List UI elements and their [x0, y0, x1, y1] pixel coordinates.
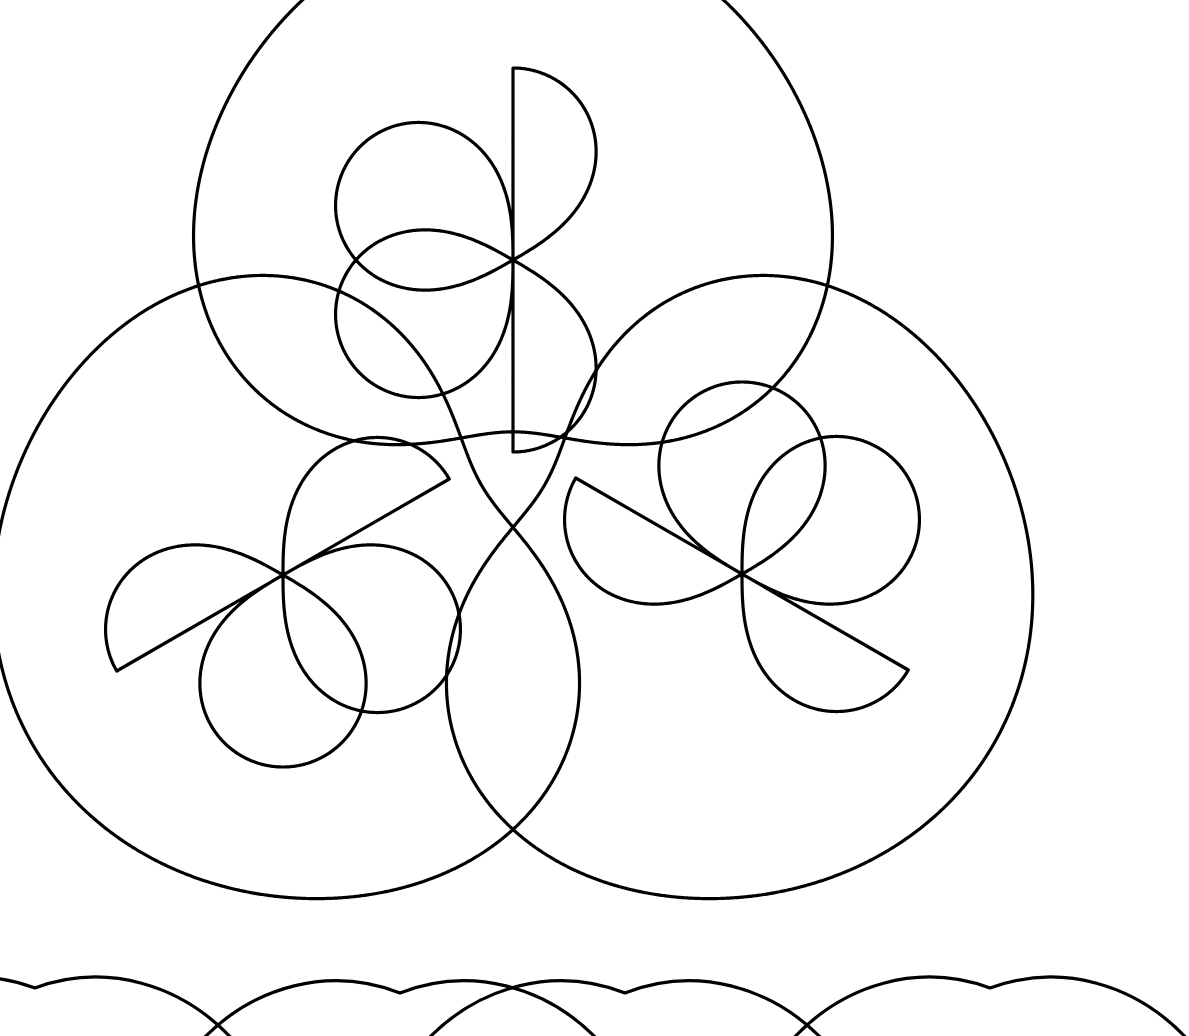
rosette-artwork: [0, 0, 1189, 1036]
artboard: [0, 0, 1189, 1036]
